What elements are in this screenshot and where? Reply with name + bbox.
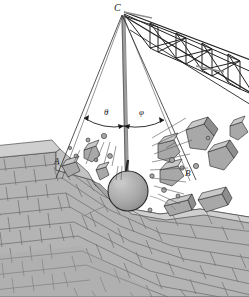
debris-chunk xyxy=(186,117,218,150)
debris-chunk xyxy=(230,116,248,140)
arc-theta xyxy=(84,118,124,127)
debris-chunk xyxy=(96,162,109,180)
debris-chunk xyxy=(160,159,184,186)
label-angle-theta: θ xyxy=(104,107,109,117)
label-angle-phi: φ xyxy=(139,107,144,117)
figure-canvas: C A B θ φ xyxy=(0,0,249,297)
wrecking-ball-diagram: C A B θ φ xyxy=(0,0,249,297)
label-position-b: B xyxy=(185,168,191,178)
ball-body xyxy=(108,171,148,211)
crane-boom xyxy=(124,12,249,108)
debris-chunk xyxy=(198,187,232,212)
label-pivot-c: C xyxy=(114,2,121,13)
arc-phi xyxy=(124,120,164,127)
ball-highlight xyxy=(113,178,127,188)
arrowhead-theta-inner xyxy=(118,124,124,129)
label-position-a: A xyxy=(53,156,60,166)
debris-chunk xyxy=(208,140,238,170)
